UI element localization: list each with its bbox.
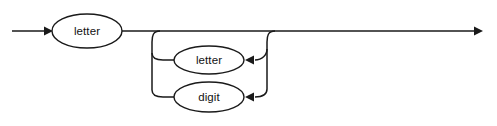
railroad-diagram-canvas: letter letter digit bbox=[0, 0, 497, 126]
loop-letter-arrowhead-icon bbox=[245, 56, 254, 65]
loop-right-rail-to-letter bbox=[255, 49, 267, 60]
loop-left-rail-to-letter bbox=[152, 53, 174, 60]
first-letter-label: letter bbox=[74, 25, 100, 37]
main-track bbox=[122, 27, 483, 36]
loop-left-rail bbox=[152, 31, 174, 97]
exit-arrowhead-icon bbox=[474, 27, 483, 36]
entry-arrow bbox=[12, 27, 53, 36]
railroad-diagram: letter letter digit bbox=[0, 0, 497, 126]
loop-digit-label: digit bbox=[198, 91, 220, 103]
loop-right-rail bbox=[245, 31, 275, 102]
node-loop-letter: letter bbox=[174, 46, 244, 74]
node-loop-digit: digit bbox=[174, 82, 244, 112]
loop-digit-arrowhead-icon bbox=[245, 93, 254, 102]
node-first-letter: letter bbox=[52, 14, 122, 48]
loop-right-rail-main bbox=[255, 31, 275, 97]
loop-letter-label: letter bbox=[196, 54, 222, 66]
loop-left-rail-to-digit bbox=[152, 31, 174, 97]
